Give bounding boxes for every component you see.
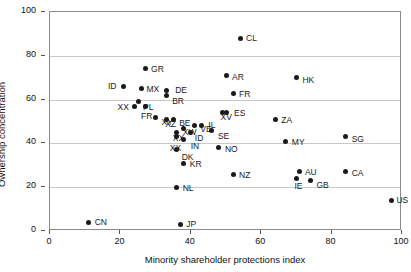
- data-point: [132, 104, 137, 109]
- y-tick-mark-0: [41, 230, 45, 231]
- data-point-label: ID: [195, 134, 204, 143]
- data-point: [164, 93, 169, 98]
- data-point: [143, 104, 148, 109]
- data-point-label: FR: [239, 90, 250, 99]
- data-point: [294, 176, 299, 181]
- data-point-label: AR: [232, 73, 244, 82]
- gridline-y-60: [50, 100, 400, 101]
- data-point-label: SG: [352, 135, 364, 144]
- gridline-y-20: [50, 187, 400, 188]
- data-point-label: CN: [95, 218, 107, 227]
- x-tick-mark-60: [260, 230, 261, 234]
- data-point-label: ES: [234, 109, 245, 118]
- data-point: [143, 66, 148, 71]
- data-point-label: XV: [220, 113, 231, 122]
- data-point: [121, 84, 126, 89]
- data-point: [139, 86, 144, 91]
- data-point: [389, 198, 394, 203]
- data-point-label: MX: [147, 85, 160, 94]
- x-tick-label-40: 40: [185, 236, 195, 246]
- data-point-label: NZ: [239, 171, 250, 180]
- x-tick-label-20: 20: [114, 236, 124, 246]
- y-tick-label-20: 20: [26, 180, 36, 190]
- x-tick-mark-80: [331, 230, 332, 234]
- data-point-label: DE: [175, 86, 187, 95]
- data-point-label: IE: [294, 182, 302, 191]
- data-point-label: GR: [151, 65, 164, 74]
- data-point-label: BR: [172, 97, 184, 106]
- x-tick-mark-40: [190, 230, 191, 234]
- data-point: [171, 117, 176, 122]
- x-tick-label-60: 60: [255, 236, 265, 246]
- x-tick-label-100: 100: [393, 236, 408, 246]
- scatter-chart-figure: CNIDXXPLGRMXFRXYBRDEXZBEXXXXNLDKJPKRINXW…: [0, 0, 411, 272]
- x-tick-mark-20: [119, 230, 120, 234]
- data-point: [343, 134, 348, 139]
- plot-area: CNIDXXPLGRMXFRXYBRDEXZBEXXXXNLDKJPKRINXW…: [49, 11, 401, 230]
- data-point: [294, 75, 299, 80]
- x-tick-label-80: 80: [326, 236, 336, 246]
- y-tick-mark-80: [41, 55, 45, 56]
- x-tick-label-0: 0: [46, 236, 51, 246]
- data-point: [297, 169, 302, 174]
- data-point-label: ZA: [281, 116, 292, 125]
- gridline-y-80: [50, 56, 400, 57]
- data-point: [231, 91, 236, 96]
- data-point-label: ID: [108, 82, 117, 91]
- y-tick-label-60: 60: [26, 93, 36, 103]
- y-tick-label-80: 80: [26, 49, 36, 59]
- data-point: [308, 178, 313, 183]
- data-point-label: CA: [352, 169, 364, 178]
- x-axis-ticks: 020406080100: [49, 230, 401, 248]
- data-point: [209, 128, 214, 133]
- data-point: [231, 172, 236, 177]
- data-point: [153, 115, 158, 120]
- data-point: [178, 222, 183, 227]
- data-point-label: MY: [292, 138, 305, 147]
- y-tick-label-0: 0: [31, 224, 36, 234]
- data-point: [136, 99, 141, 104]
- y-axis-label: Ownership concentration: [0, 50, 7, 220]
- data-point-label: NL: [183, 184, 194, 193]
- data-point-label: CL: [246, 34, 257, 43]
- data-point: [343, 169, 348, 174]
- x-tick-mark-100: [401, 230, 402, 234]
- y-tick-mark-60: [41, 99, 45, 100]
- data-point: [174, 185, 179, 190]
- data-point: [86, 220, 91, 225]
- data-point-label: FR: [141, 112, 152, 121]
- data-point-label: HK: [302, 76, 314, 85]
- data-point-label: JP: [186, 220, 196, 229]
- data-point: [181, 137, 186, 142]
- data-point: [216, 145, 221, 150]
- data-point-label: US: [396, 196, 408, 205]
- x-axis-label: Minority shareholder protections index: [49, 254, 401, 265]
- y-tick-mark-40: [41, 142, 45, 143]
- data-point-label: KR: [190, 160, 202, 169]
- data-point-label: SE: [218, 132, 229, 141]
- data-point: [224, 73, 229, 78]
- x-tick-mark-0: [49, 230, 50, 234]
- y-tick-mark-100: [41, 11, 45, 12]
- data-point: [238, 36, 243, 41]
- data-point-label: NO: [225, 145, 238, 154]
- y-axis-ticks: 020406080100: [0, 11, 45, 230]
- data-point-label: GB: [316, 181, 328, 190]
- y-tick-label-40: 40: [26, 136, 36, 146]
- data-point: [273, 117, 278, 122]
- y-tick-mark-20: [41, 186, 45, 187]
- data-point-label: XX: [117, 103, 128, 112]
- data-point: [181, 161, 186, 166]
- y-tick-label-100: 100: [21, 5, 36, 15]
- data-point-label: AU: [305, 168, 317, 177]
